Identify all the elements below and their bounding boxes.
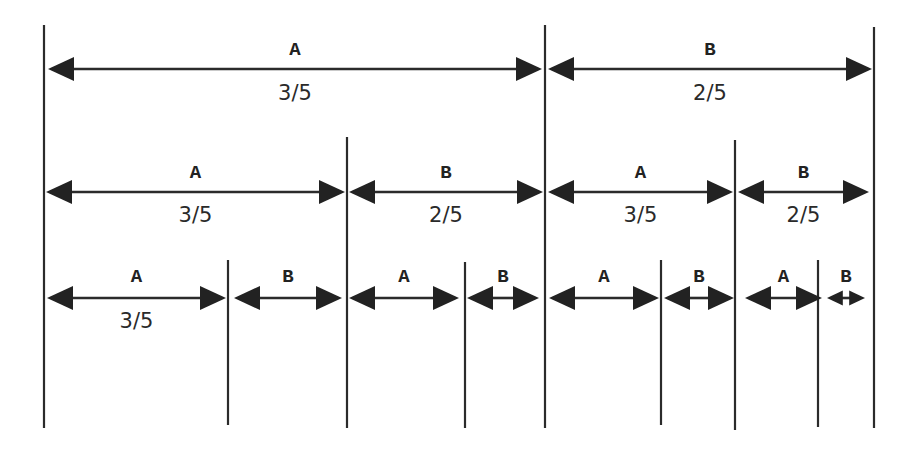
arrowhead-left-icon [549,286,575,310]
arrowhead-right-icon [708,286,734,310]
segment-fraction: 2/5 [429,203,463,227]
segment-a: A [349,266,459,310]
segment-a: A3/5 [46,162,345,227]
segment-b: B2/5 [548,39,872,105]
segment-b: B [664,266,734,310]
segment-label: A [598,266,610,288]
arrowhead-right-icon [516,57,542,81]
segment-label: B [440,162,451,184]
segment-fraction: 3/5 [120,309,154,333]
arrowhead-left-icon [234,286,260,310]
arrowhead-right-icon [319,180,345,204]
arrowhead-right-icon [849,290,865,305]
segment-label: B [693,266,704,288]
arrowhead-left-icon [738,180,764,204]
arrowhead-left-icon [827,290,843,305]
arrowhead-left-icon [664,286,690,310]
segment-b: B2/5 [349,162,543,227]
arrowhead-left-icon [48,57,74,81]
arrow-row-3: A3/5BABABAB [47,266,865,333]
arrow-rows: A3/5B2/5A3/5B2/5A3/5B2/5A3/5BABABAB [46,39,872,333]
segment-fraction: 2/5 [693,81,727,105]
segment-label: B [282,266,293,288]
arrow-row-2: A3/5B2/5A3/5B2/5 [46,162,869,227]
segment-a: A [549,266,659,310]
arrowhead-right-icon [200,286,226,310]
arrowhead-right-icon [316,286,342,310]
segment-label: A [131,266,143,288]
segment-a: A [745,266,822,310]
segment-a: A3/5 [48,39,542,105]
segment-a: A3/5 [47,266,226,333]
segment-b: B2/5 [738,162,869,227]
arrowhead-left-icon [548,180,574,204]
arrowhead-left-icon [548,57,574,81]
segment-fraction: 3/5 [179,203,213,227]
segment-b: B [827,266,865,306]
segment-fraction: 2/5 [787,203,821,227]
arrowhead-left-icon [46,180,72,204]
arrowhead-right-icon [846,57,872,81]
segment-label: A [190,162,202,184]
segment-label: A [289,39,301,61]
segment-b: B [467,266,539,310]
segment-fraction: 3/5 [278,81,312,105]
arrowhead-right-icon [513,286,539,310]
segment-fraction: 3/5 [624,203,658,227]
segment-a: A3/5 [548,162,733,227]
subdivision-diagram: A3/5B2/5A3/5B2/5A3/5B2/5A3/5BABABAB [0,0,909,449]
divider-lines [44,25,874,430]
segment-label: A [398,266,410,288]
arrowhead-right-icon [843,180,869,204]
arrowhead-right-icon [633,286,659,310]
arrowhead-left-icon [349,286,375,310]
arrow-row-1: A3/5B2/5 [48,39,872,105]
arrowhead-left-icon [745,286,771,310]
arrowhead-right-icon [707,180,733,204]
segment-label: B [704,39,715,61]
arrowhead-left-icon [467,286,493,310]
segment-label: B [798,162,809,184]
segment-label: A [778,266,790,288]
arrowhead-left-icon [349,180,375,204]
segment-label: A [635,162,647,184]
segment-label: B [840,266,851,288]
segment-label: B [497,266,508,288]
arrowhead-right-icon [517,180,543,204]
arrowhead-right-icon [433,286,459,310]
segment-b: B [234,266,342,310]
arrowhead-left-icon [47,286,73,310]
